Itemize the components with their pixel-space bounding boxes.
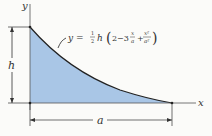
area-diagram: y x h a y = 1 2 h ( 2−3 x a + x² a² ) bbox=[0, 0, 212, 136]
arrow-up-icon bbox=[10, 27, 14, 32]
arrow-left-icon bbox=[30, 118, 35, 122]
svg-text:2−3: 2−3 bbox=[112, 34, 129, 43]
y-axis-label: y bbox=[21, 0, 28, 11]
svg-text:x: x bbox=[131, 30, 135, 36]
svg-text:(: ( bbox=[106, 30, 111, 46]
curve-start-point bbox=[29, 26, 32, 29]
equation-leader-line bbox=[58, 38, 66, 48]
origin-point bbox=[29, 102, 32, 105]
svg-text:x²: x² bbox=[144, 30, 149, 36]
svg-text:): ) bbox=[152, 30, 157, 46]
svg-text:h: h bbox=[97, 33, 103, 43]
svg-text:y =: y = bbox=[67, 33, 84, 43]
arrow-down-icon bbox=[10, 98, 14, 103]
curve-equation: y = 1 2 h ( 2−3 x a + x² a² ) bbox=[67, 30, 157, 46]
svg-text:1: 1 bbox=[91, 30, 94, 36]
arrow-right-icon bbox=[167, 118, 172, 122]
width-label: a bbox=[97, 114, 104, 127]
x-axis-label: x bbox=[198, 97, 204, 108]
svg-text:+: + bbox=[137, 34, 144, 43]
svg-text:2: 2 bbox=[91, 38, 94, 44]
svg-text:a²: a² bbox=[144, 38, 149, 44]
svg-text:a: a bbox=[131, 38, 134, 44]
height-label: h bbox=[8, 59, 15, 72]
curve-end-point bbox=[171, 102, 174, 105]
